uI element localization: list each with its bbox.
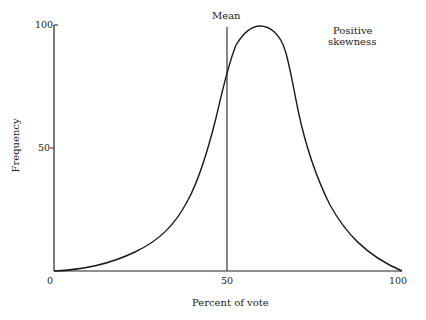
y-tick-label-50: 50 xyxy=(38,142,50,153)
x-tick-label-50: 50 xyxy=(221,275,233,286)
x-tick-label-100: 100 xyxy=(389,275,407,286)
distribution-curve xyxy=(54,26,402,271)
x-axis-title: Percent of vote xyxy=(192,297,269,308)
x-tick-label-0: 0 xyxy=(47,275,53,286)
mean-label: Mean xyxy=(212,10,241,21)
y-tick-label-100: 100 xyxy=(35,19,53,30)
skewness-label-line1: Positive xyxy=(333,25,372,36)
skewness-label-line2: skewness xyxy=(328,36,376,47)
chart-canvas xyxy=(0,0,426,320)
y-axis-title: Frequency xyxy=(10,123,21,173)
